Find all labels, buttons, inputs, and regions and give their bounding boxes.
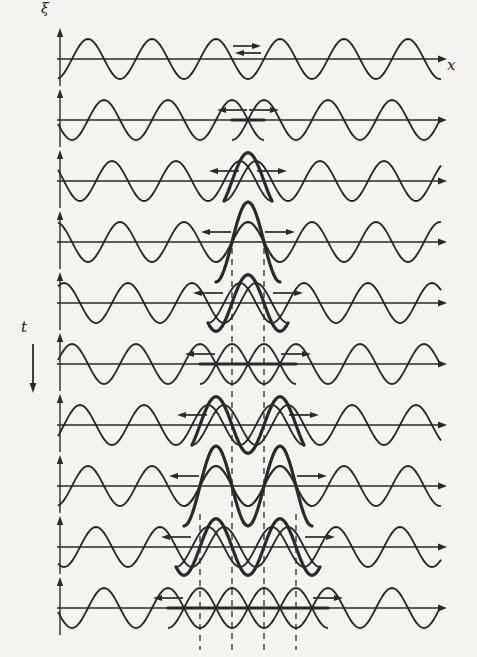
wave-row-1 [57, 28, 447, 86]
resultant-wave-curve [224, 153, 272, 201]
left-direction-arrowhead [201, 229, 210, 235]
position-axis-label: x [447, 58, 455, 73]
right-direction-arrowhead [294, 290, 303, 296]
xi-axis-arrowhead [57, 516, 63, 525]
left-direction-arrowhead [169, 473, 178, 479]
xi-axis-arrowhead [57, 333, 63, 342]
right-direction-arrowhead [270, 107, 279, 113]
displacement-axis-label: ξ [41, 1, 49, 15]
x-axis-arrowhead [438, 56, 447, 63]
xi-axis-arrowhead [57, 272, 63, 281]
xi-axis-arrowhead [57, 394, 63, 403]
xi-axis-arrowhead [57, 211, 63, 220]
wave-superposition-diagram [0, 0, 477, 657]
right-direction-arrowhead [252, 43, 261, 49]
xi-axis-arrowhead [57, 89, 63, 98]
x-axis-arrowhead [438, 300, 447, 307]
wave-row-5 [57, 272, 447, 331]
wave-row-3 [57, 150, 447, 208]
left-direction-arrowhead [177, 412, 186, 418]
right-direction-arrowhead [286, 229, 295, 235]
left-direction-arrowhead [209, 168, 218, 174]
xi-axis-arrowhead [57, 28, 63, 37]
wave-row-8 [57, 446, 447, 526]
left-direction-arrowhead [217, 107, 226, 113]
left-direction-arrowhead [185, 351, 194, 357]
wave-row-2 [57, 89, 447, 147]
node-dashed-guides [200, 248, 296, 650]
right-direction-arrowhead [318, 473, 327, 479]
time-direction-arrow [30, 344, 37, 393]
wave-row-10 [57, 577, 447, 635]
right-direction-arrowhead [326, 534, 335, 540]
x-axis-arrowhead [438, 483, 447, 490]
right-direction-arrowhead [302, 351, 311, 357]
textbook-figure-page: ξ x t [0, 0, 477, 657]
time-axis-label: t [21, 320, 27, 335]
left-direction-arrowhead [161, 534, 170, 540]
right-direction-arrowhead [334, 595, 343, 601]
x-axis-arrowhead [438, 178, 447, 185]
wave-row-6 [57, 333, 447, 391]
left-direction-arrowhead [153, 595, 162, 601]
xi-axis-arrowhead [57, 577, 63, 586]
x-axis-arrowhead [438, 544, 447, 551]
wave-row-7 [57, 394, 447, 453]
left-direction-arrowhead [193, 290, 202, 296]
time-arrowhead [30, 383, 37, 393]
right-direction-arrowhead [278, 168, 287, 174]
xi-axis-arrowhead [57, 455, 63, 464]
left-direction-arrowhead [235, 50, 244, 56]
x-axis-arrowhead [438, 422, 447, 429]
right-direction-arrowhead [310, 412, 319, 418]
xi-axis-arrowhead [57, 150, 63, 159]
x-axis-arrowhead [438, 239, 447, 246]
wave-row-4 [57, 202, 447, 282]
